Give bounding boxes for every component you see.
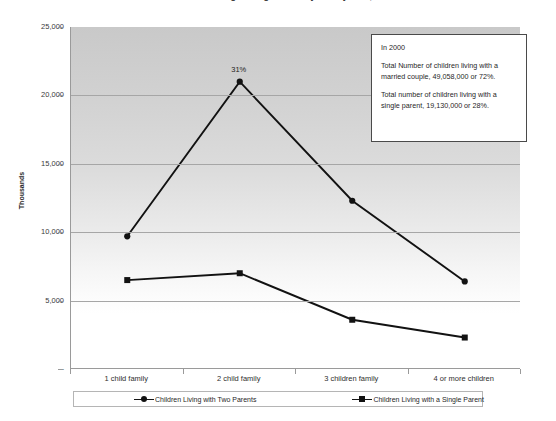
chart-legend: Children Living with Two Parents Childre… bbox=[73, 391, 483, 407]
series-line bbox=[127, 273, 465, 337]
x-axis-tick-label: 3 children family bbox=[296, 374, 406, 383]
data-point-square bbox=[349, 317, 355, 323]
y-axis-tick-mark bbox=[58, 232, 63, 233]
y-axis-tick-mark bbox=[58, 301, 63, 302]
annotation-single-line: Total number of children living with a s… bbox=[381, 90, 517, 111]
x-axis-tick-label: 2 child family bbox=[184, 374, 294, 383]
data-point-circle bbox=[237, 79, 243, 85]
y-axis-tick-mark bbox=[58, 369, 63, 370]
data-point-circle bbox=[349, 198, 355, 204]
y-axis-tick-labels: 25,00020,00015,00010,0005,000- bbox=[14, 0, 64, 421]
chart-title: Children's Living Arrangements by Family… bbox=[0, 0, 556, 3]
data-point-circle bbox=[462, 278, 468, 284]
data-point-label: 31% bbox=[219, 65, 259, 74]
data-point-square bbox=[124, 277, 130, 283]
y-axis-tick-mark bbox=[58, 95, 63, 96]
chart-container: Children's Living Arrangements by Family… bbox=[0, 0, 556, 421]
gridline bbox=[71, 164, 520, 165]
annotation-married-line: Total Number of children living with a m… bbox=[381, 61, 517, 82]
x-axis-tick-label: 1 child family bbox=[71, 374, 181, 383]
legend-label-single-parent: Children Living with a Single Parent bbox=[373, 396, 484, 403]
data-point-circle bbox=[124, 233, 130, 239]
square-marker-icon bbox=[352, 395, 372, 404]
data-point-square bbox=[462, 335, 468, 341]
gridline bbox=[71, 301, 520, 302]
x-axis-tick-mark bbox=[520, 369, 521, 374]
data-point-square bbox=[237, 270, 243, 276]
annotation-heading: In 2000 bbox=[381, 43, 517, 53]
x-axis-tick-label: 4 or more children bbox=[409, 374, 519, 383]
gridline bbox=[71, 232, 520, 233]
legend-entry-two-parents: Children Living with Two Parents bbox=[134, 395, 256, 404]
y-axis-tick-mark bbox=[58, 164, 63, 165]
annotation-textbox: In 2000 Total Number of children living … bbox=[371, 34, 527, 142]
circle-marker-icon bbox=[134, 395, 154, 404]
legend-label-two-parents: Children Living with Two Parents bbox=[155, 396, 256, 403]
y-axis-tick-mark bbox=[58, 27, 63, 28]
legend-entry-single-parent: Children Living with a Single Parent bbox=[352, 395, 484, 404]
